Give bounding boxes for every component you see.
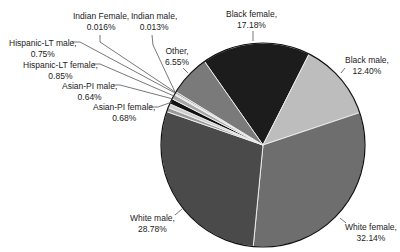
label-pct: 0.68% [93,113,155,124]
label-name: Black female, [226,9,277,20]
label-name: Asian-PI male, [62,81,117,92]
label-pct: 12.40% [345,66,389,77]
label-name: White female, [345,222,397,233]
label-asian-pi-male: Asian-PI male, 0.64% [62,81,117,102]
label-name: Asian-PI female, [93,102,155,113]
label-name: Other, [165,46,189,57]
label-white-female: White female, 32.14% [345,222,397,243]
label-white-male: White male, 28.78% [130,213,175,234]
label-other: Other, 6.55% [165,46,189,67]
label-indian-female: Indian Female, 0.016% [73,11,129,32]
label-pct: 0.64% [62,92,117,103]
label-pct: 0.013% [131,22,177,33]
pie-slices [161,43,365,247]
label-name: Hispanic-LT female, [23,60,98,71]
label-name: White male, [130,213,175,224]
label-hispanic-lt-female: Hispanic-LT female, 0.85% [23,60,98,81]
label-pct: 0.016% [73,22,129,33]
label-name: Hispanic-LT male, [9,38,77,49]
label-name: Black male, [345,55,389,66]
leader-other [183,68,188,73]
label-name: Indian male, [131,11,177,22]
label-indian-male: Indian male, 0.013% [131,11,177,32]
label-pct: 32.14% [345,233,397,244]
label-pct: 0.85% [23,71,98,82]
label-hispanic-lt-male: Hispanic-LT male, 0.75% [9,38,77,59]
label-name: Indian Female, [73,11,129,22]
label-pct: 28.78% [130,224,175,235]
leader-white-male [175,209,182,215]
label-black-female: Black female, 17.18% [226,9,277,30]
label-pct: 0.75% [9,49,77,60]
label-pct: 6.55% [165,57,189,68]
label-asian-pi-female: Asian-PI female, 0.68% [93,102,155,123]
label-black-male: Black male, 12.40% [345,55,389,76]
label-pct: 17.18% [226,20,277,31]
